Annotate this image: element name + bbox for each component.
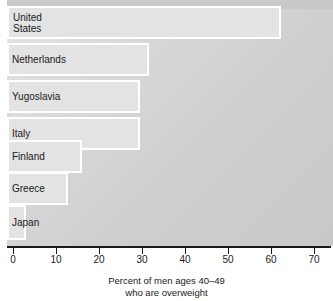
bar-label-greece: Greece bbox=[12, 183, 45, 195]
x-axis-tick-label: 50 bbox=[222, 254, 233, 265]
x-axis-tick-label: 30 bbox=[136, 254, 147, 265]
bar-label-italy: Italy bbox=[12, 128, 30, 140]
bar-chart: United States Netherlands Yugoslavia Ita… bbox=[0, 0, 333, 301]
x-axis-tick-label: 70 bbox=[308, 254, 319, 265]
bar-label-yugoslavia: Yugoslavia bbox=[12, 91, 60, 103]
x-axis-tick-label: 40 bbox=[179, 254, 190, 265]
x-axis-title-line-1: Percent of men ages 40–49 bbox=[0, 275, 333, 287]
bar-label-japan: Japan bbox=[12, 217, 39, 229]
bar-label-netherlands: Netherlands bbox=[12, 54, 66, 66]
x-axis-tick-label: 20 bbox=[93, 254, 104, 265]
x-axis-title-line-2: who are overweight bbox=[0, 287, 333, 299]
x-axis-tick-label: 60 bbox=[265, 254, 276, 265]
bar-united-states bbox=[7, 6, 281, 39]
bar-label-united-states: United States bbox=[13, 11, 42, 34]
x-axis-tick-label: 10 bbox=[50, 254, 61, 265]
bar-label-finland: Finland bbox=[12, 151, 45, 163]
bars-layer: United States Netherlands Yugoslavia Ita… bbox=[0, 0, 333, 246]
x-axis-title: Percent of men ages 40–49 who are overwe… bbox=[0, 275, 333, 299]
x-axis-tick-label: 0 bbox=[10, 254, 16, 265]
